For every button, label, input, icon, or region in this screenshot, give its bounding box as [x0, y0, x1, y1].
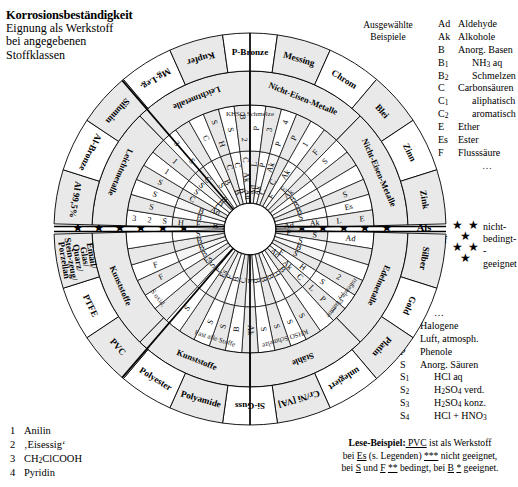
wheel-cell-code: 2 [240, 137, 249, 142]
wheel-cell-code: E [359, 214, 365, 223]
wheel-cell-code: 2 [147, 215, 152, 224]
wheel-cell-code: Ad [345, 233, 356, 243]
wheel-cell-code: L [336, 216, 342, 225]
wheel-cell-code: 3 [132, 214, 137, 223]
corrosion-wheel: BFHS23B1SBSAdCSC2S1B1S1B1C1S3S1BCBCHSBCS… [0, 0, 518, 487]
diagram-root: Korrosionsbeständigkeit Eignung als Werk… [0, 0, 518, 487]
